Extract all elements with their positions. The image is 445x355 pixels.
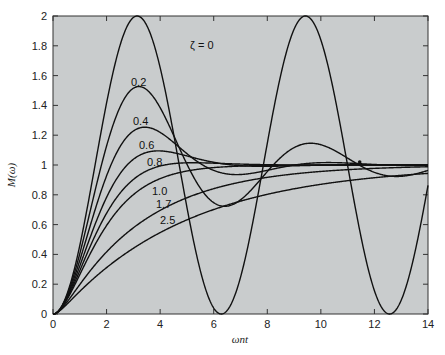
curve-label: 0.2: [131, 76, 146, 88]
curve-label: 0.8: [147, 156, 162, 168]
y-tick-label: 1.2: [32, 129, 47, 141]
y-tick-label: 1.6: [32, 70, 47, 82]
y-tick-label: 1.8: [32, 40, 47, 52]
y-tick-label: 1: [41, 159, 47, 171]
annotation-dot: [358, 160, 362, 164]
x-tick-label: 6: [211, 318, 217, 330]
curve-label: 1.7: [156, 198, 171, 210]
curve-label: 2.5: [160, 214, 175, 226]
curve-label: 0.4: [133, 115, 148, 127]
curve-label: ζ = 0: [190, 39, 214, 51]
x-tick-label: 10: [315, 318, 327, 330]
x-tick-label: 4: [157, 318, 163, 330]
y-tick-label: 2: [41, 10, 47, 22]
curve-label: 1.0: [152, 185, 167, 197]
x-tick-label: 12: [368, 318, 380, 330]
step-response-chart: 0246810121400.20.40.60.811.21.41.61.82 ζ…: [0, 0, 445, 355]
curve-label: 0.6: [139, 139, 154, 151]
x-tick-label: 2: [104, 318, 110, 330]
y-tick-label: 0.8: [32, 189, 47, 201]
y-tick-label: 0: [41, 308, 47, 320]
x-tick-label: 8: [264, 318, 270, 330]
x-tick-label: 14: [422, 318, 434, 330]
y-axis-title: M(ω): [5, 163, 18, 189]
y-tick-label: 0.4: [32, 248, 47, 260]
x-axis-title: ωnt: [232, 333, 249, 345]
x-tick-label: 0: [50, 318, 56, 330]
y-tick-label: 0.6: [32, 219, 47, 231]
y-tick-label: 1.4: [32, 99, 47, 111]
y-tick-label: 0.2: [32, 278, 47, 290]
